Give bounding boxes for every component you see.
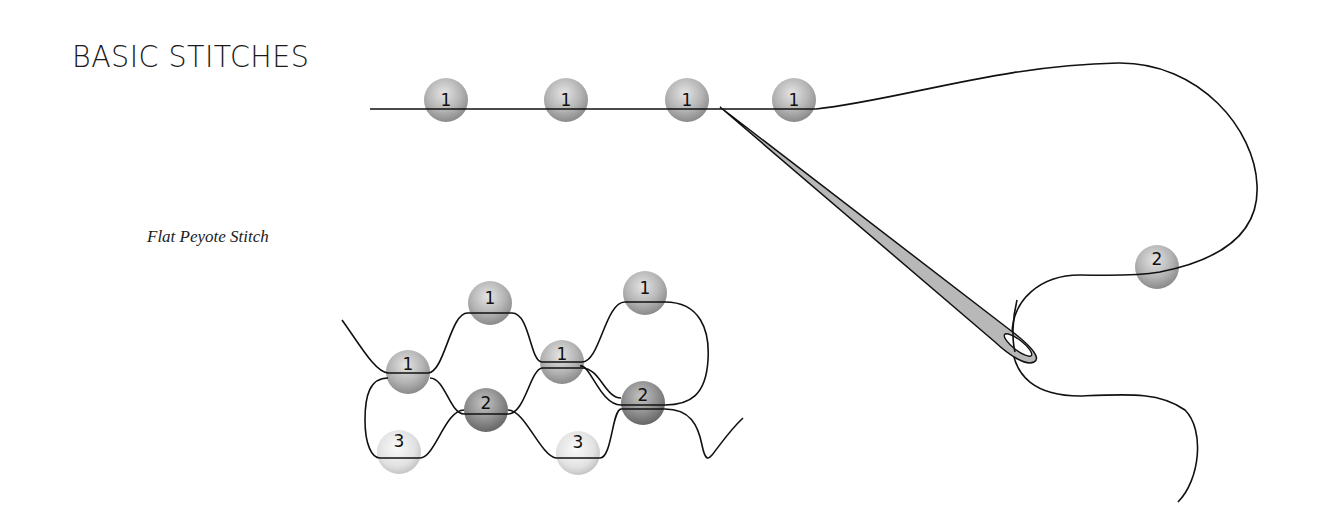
flat-peyote-diagram: 1 1 1 1 2 2 3 3 (342, 271, 743, 475)
needle-icon (720, 107, 1037, 363)
svg-text:1: 1 (441, 90, 452, 110)
bead: 2 (1135, 245, 1179, 289)
thread (370, 63, 1257, 502)
svg-text:2: 2 (638, 385, 649, 405)
svg-text:1: 1 (557, 344, 568, 364)
bead: 1 (772, 78, 816, 122)
svg-text:1: 1 (561, 90, 572, 110)
bead: 1 (623, 271, 667, 315)
bead: 1 (424, 78, 468, 122)
svg-text:2: 2 (1152, 249, 1163, 269)
svg-text:1: 1 (640, 278, 651, 298)
bead: 1 (544, 78, 588, 122)
svg-text:3: 3 (573, 432, 584, 452)
bead: 3 (377, 430, 421, 474)
bead: 1 (468, 281, 512, 325)
bead: 2 (464, 388, 508, 432)
bead-stringing-diagram: 1 1 1 1 2 (370, 63, 1257, 502)
svg-text:1: 1 (403, 354, 414, 374)
bead: 1 (386, 350, 430, 394)
thread (430, 368, 621, 414)
svg-text:1: 1 (682, 90, 693, 110)
svg-text:2: 2 (481, 393, 492, 413)
svg-text:1: 1 (485, 288, 496, 308)
svg-text:3: 3 (394, 431, 405, 451)
stitch-illustration: 1 1 1 1 2 1 1 1 1 2 2 3 3 (0, 0, 1327, 531)
svg-text:1: 1 (789, 90, 800, 110)
thread (508, 409, 743, 458)
bead: 2 (621, 381, 665, 425)
bead: 1 (665, 78, 709, 122)
bead: 3 (556, 431, 600, 475)
